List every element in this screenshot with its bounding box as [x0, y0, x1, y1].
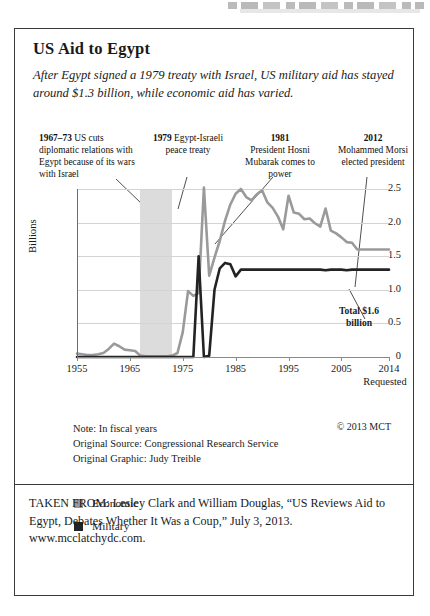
x-tick-mark — [130, 357, 131, 361]
x-tick-label: 2005 — [331, 363, 352, 374]
scan-artifact-secondary — [240, 9, 420, 13]
annotation-1979-year: 1979 — [153, 133, 172, 143]
y-axis-label: Billions — [27, 219, 38, 253]
x-tick-sublabel-requested: Requested — [363, 376, 406, 387]
annotation-1967: 1967–73 US cuts diplomatic relations wit… — [39, 133, 143, 180]
plot-area — [77, 189, 389, 357]
x-tick-mark — [389, 357, 390, 361]
y-axis-line — [77, 189, 78, 357]
series-lines — [77, 189, 389, 357]
note-fiscal-years: Note: In fiscal years — [73, 421, 278, 436]
x-tick-mark — [289, 357, 290, 361]
x-tick-label: 1985 — [225, 363, 246, 374]
annotation-1979-text: Egypt-Israeli peace treaty — [165, 133, 223, 155]
aid-chart: Billions 00.51.01.52.02.5 19551965197519… — [33, 181, 401, 393]
copyright-notice: © 2013 MCT — [337, 421, 391, 432]
x-tick-label: 1975 — [172, 363, 193, 374]
total-callout-label: Total $1.6 billion — [329, 305, 389, 328]
x-tick-label: 1995 — [278, 363, 299, 374]
page-title: US Aid to Egypt — [33, 39, 150, 59]
y-tick-label: 1.5 — [363, 249, 401, 260]
annotation-2012-text: Mohammed Morsi elected president — [338, 145, 408, 167]
divider-rule — [15, 484, 413, 485]
annotation-2012-year: 2012 — [364, 133, 383, 143]
x-tick-label: 1965 — [119, 363, 140, 374]
annotation-1967-year: 1967–73 — [39, 133, 72, 143]
x-tick-mark — [236, 357, 237, 361]
x-tick-label: 2014 — [379, 363, 400, 374]
annotation-1979: 1979 Egypt-Israeli peace treaty — [148, 133, 228, 157]
figure-subtitle: After Egypt signed a 1979 treaty with Is… — [33, 67, 397, 103]
x-tick-mark — [183, 357, 184, 361]
annotation-1981: 1981 President Hosni Mubarak comes to po… — [239, 133, 321, 180]
y-tick-label: 1.0 — [363, 283, 401, 294]
note-original-source: Original Source: Congressional Research … — [73, 436, 278, 451]
figure-frame: US Aid to Egypt After Egypt signed a 197… — [14, 28, 414, 596]
x-tick-mark — [77, 357, 78, 361]
scan-artifact — [228, 2, 424, 9]
x-tick-label: 1955 — [67, 363, 88, 374]
note-original-graphic: Original Graphic: Judy Treible — [73, 451, 278, 466]
annotation-1981-year: 1981 — [271, 133, 290, 143]
y-tick-label: 2.5 — [363, 182, 401, 193]
notes-block: Note: In fiscal years Original Source: C… — [73, 421, 278, 466]
y-tick-label: 2.0 — [363, 216, 401, 227]
citation-text: TAKEN FROM: Lesley Clark and William Dou… — [29, 495, 399, 548]
annotation-2012: 2012 Mohammed Morsi elected president — [335, 133, 411, 169]
y-tick-label: 0 — [363, 350, 401, 361]
annotation-1981-text: President Hosni Mubarak comes to power — [245, 145, 315, 179]
x-tick-mark — [341, 357, 342, 361]
